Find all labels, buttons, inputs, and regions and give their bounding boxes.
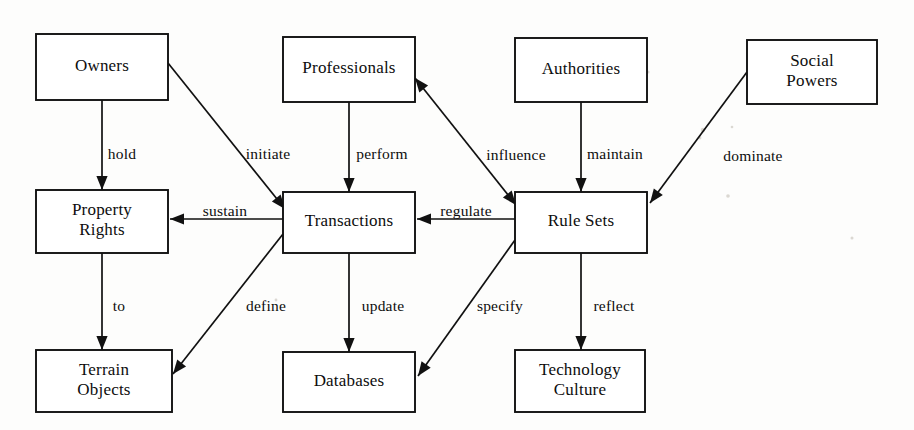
node-label-databases: Databases	[314, 371, 385, 390]
arrowhead-specify-end	[418, 361, 431, 376]
node-property-rights[interactable]: PropertyRights	[36, 190, 168, 253]
scan-speck	[851, 237, 854, 240]
node-label-social-powers: Powers	[786, 71, 837, 90]
node-label-authorities: Authorities	[542, 59, 621, 78]
arrowhead-to-end	[96, 336, 107, 350]
node-rule-sets[interactable]: Rule Sets	[515, 192, 647, 253]
arrowhead-hold-end	[96, 176, 107, 190]
edge-label-update: update	[362, 297, 405, 314]
edge-dominate	[650, 72, 747, 203]
edge-reflect	[575, 253, 586, 350]
node-label-social-powers: Social	[790, 51, 834, 70]
edge-line-initiate	[168, 63, 285, 209]
edge-influence	[415, 78, 516, 205]
edge-label-influence: influence	[486, 146, 545, 163]
edge-label-perform: perform	[356, 145, 407, 162]
node-label-owners: Owners	[75, 56, 129, 75]
edge-line-dominate	[650, 72, 747, 203]
edge-maintain	[575, 102, 586, 192]
nodes-layer: OwnersProfessionalsAuthoritiesSocialPowe…	[36, 34, 877, 412]
edge-label-define: define	[246, 297, 286, 314]
arrowhead-regulate-end	[417, 213, 431, 224]
diagram-canvas: OwnersProfessionalsAuthoritiesSocialPowe…	[0, 0, 914, 430]
edge-hold	[96, 100, 107, 190]
scan-speck	[726, 194, 730, 198]
edge-label-hold: hold	[108, 145, 136, 162]
relationship-diagram: OwnersProfessionalsAuthoritiesSocialPowe…	[0, 0, 914, 430]
edge-label-initiate: initiate	[246, 145, 291, 162]
edge-label-maintain: maintain	[587, 145, 643, 162]
edge-line-influence	[415, 78, 516, 205]
edge-label-specify: specify	[477, 297, 523, 314]
node-authorities[interactable]: Authorities	[515, 38, 647, 102]
arrowhead-define-end	[173, 360, 186, 374]
edge-label-to: to	[113, 297, 126, 314]
node-terrain-objects[interactable]: TerrainObjects	[36, 350, 172, 412]
arrowhead-influence-start	[415, 78, 428, 92]
node-databases[interactable]: Databases	[283, 352, 415, 412]
edge-labels-layer: holdinitiateperforminfluencemaintaindomi…	[108, 145, 783, 314]
edge-label-reflect: reflect	[594, 297, 635, 314]
edge-initiate	[168, 63, 285, 209]
node-technology-culture[interactable]: TechnologyCulture	[515, 350, 645, 412]
arrowhead-maintain-end	[575, 178, 586, 192]
node-label-terrain-objects: Objects	[77, 380, 130, 399]
node-label-terrain-objects: Terrain	[79, 360, 130, 379]
node-owners[interactable]: Owners	[36, 34, 168, 100]
node-label-transactions: Transactions	[305, 211, 394, 230]
edge-update	[343, 253, 354, 352]
scan-speck	[731, 126, 734, 129]
edge-label-regulate: regulate	[440, 202, 492, 219]
node-social-powers[interactable]: SocialPowers	[747, 40, 877, 104]
arrowhead-sustain-end	[170, 213, 184, 224]
arrowhead-dominate-end	[650, 188, 663, 203]
arrowhead-reflect-end	[575, 336, 586, 350]
edges-layer	[96, 63, 747, 376]
edge-perform	[343, 102, 354, 192]
arrowhead-influence-end	[503, 191, 516, 205]
node-label-property-rights: Property	[72, 200, 132, 219]
node-label-technology-culture: Technology	[539, 360, 621, 379]
node-label-rule-sets: Rule Sets	[548, 211, 615, 230]
arrowhead-update-end	[343, 338, 354, 352]
node-label-technology-culture: Culture	[554, 380, 606, 399]
edge-label-dominate: dominate	[723, 147, 782, 164]
node-professionals[interactable]: Professionals	[283, 37, 415, 102]
edge-label-sustain: sustain	[203, 202, 248, 219]
edge-to	[96, 253, 107, 350]
node-label-property-rights: Rights	[79, 220, 125, 239]
arrowhead-perform-end	[343, 178, 354, 192]
node-transactions[interactable]: Transactions	[283, 192, 415, 253]
node-label-professionals: Professionals	[302, 58, 395, 77]
